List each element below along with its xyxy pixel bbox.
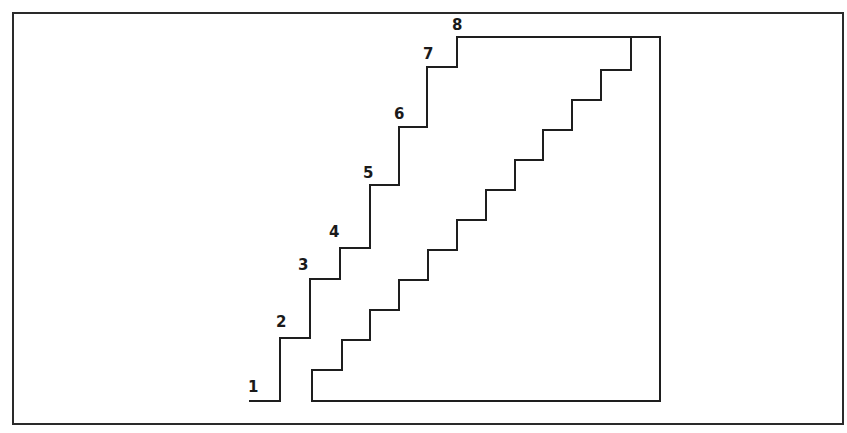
upper-stair-outline bbox=[250, 37, 660, 401]
step-label-7: 7 bbox=[423, 45, 433, 63]
step-label-5: 5 bbox=[363, 164, 373, 182]
step-label-2: 2 bbox=[276, 313, 286, 331]
step-label-8: 8 bbox=[452, 16, 462, 34]
step-label-1: 1 bbox=[248, 378, 258, 396]
step-label-4: 4 bbox=[329, 223, 339, 241]
step-label-6: 6 bbox=[394, 105, 404, 123]
step-label-3: 3 bbox=[298, 256, 308, 274]
staircase-diagram: 1 2 3 4 5 6 7 8 bbox=[0, 0, 847, 433]
lower-stair-outline bbox=[312, 37, 631, 401]
